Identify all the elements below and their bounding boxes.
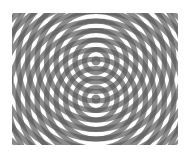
interference-pattern-image bbox=[0, 0, 189, 155]
interference-rings bbox=[0, 0, 189, 155]
